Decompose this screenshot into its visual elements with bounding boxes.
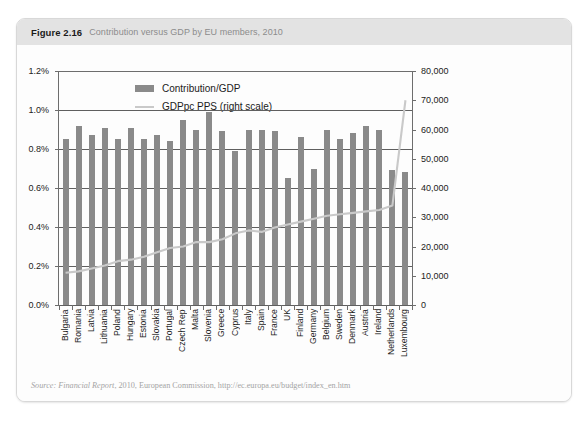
x-tick-label: France [269, 309, 279, 381]
y-tick-label-right: 10,000 [421, 271, 449, 281]
x-tick-label: Hungary [125, 309, 135, 381]
gdppc-polyline [66, 100, 406, 273]
x-tick-label: Czech Rep [177, 309, 187, 381]
x-tick-label: Germany [308, 309, 318, 381]
y-tick-right [412, 247, 416, 248]
x-tick-label: Slovenia [203, 309, 213, 381]
source-rest: , 2010, European Commission, http://ec.e… [114, 381, 350, 390]
y-tick-label-left: 0.6% [28, 183, 49, 193]
figure-source: Source: Financial Report, 2010, European… [31, 381, 350, 390]
y-tick-right [412, 276, 416, 277]
gdppc-line [59, 71, 412, 305]
x-tick-label: Ireland [373, 309, 383, 381]
x-tick-label: Cyprus [230, 309, 240, 381]
y-tick-label-right: 60,000 [421, 125, 449, 135]
x-tick-label: Luxembourg [399, 309, 409, 381]
plot-box [58, 71, 413, 306]
x-tick-label: Malta [190, 309, 200, 381]
y-tick-label-right: 40,000 [421, 183, 449, 193]
y-tick-label-right: 70,000 [421, 95, 449, 105]
x-tick-label: Spain [256, 309, 266, 381]
y-tick-right [412, 71, 416, 72]
y-tick-label-right: 0 [421, 300, 426, 310]
x-tick-label: Lithuania [99, 309, 109, 381]
y-tick-right [412, 217, 416, 218]
figure-number: Figure 2.16 [31, 27, 82, 38]
figure-title: Contribution versus GDP by EU members, 2… [89, 27, 283, 37]
figure-card: Figure 2.16 Contribution versus GDP by E… [16, 18, 572, 402]
x-tick-label: Bulgaria [60, 309, 70, 381]
y-tick-label-left: 0.2% [28, 261, 49, 271]
y-tick-left [55, 227, 59, 228]
figure-header: Figure 2.16 Contribution versus GDP by E… [17, 19, 571, 46]
x-tick-label: Finland [295, 309, 305, 381]
x-tick-label: Poland [112, 309, 122, 381]
x-tick-label: Sweden [334, 309, 344, 381]
x-tick-label: Portugal [164, 309, 174, 381]
chart-area: Contribution/GDP GDPpc PPS (right scale)… [17, 45, 571, 401]
y-tick-left [55, 266, 59, 267]
y-tick-label-left: 0.8% [28, 144, 49, 154]
x-tick-label: Belgium [321, 309, 331, 381]
y-tick-label-right: 20,000 [421, 242, 449, 252]
x-tick-label: Estonia [138, 309, 148, 381]
y-tick-right [412, 188, 416, 189]
y-axis-right: 010,00020,00030,00040,00050,00060,00070,… [415, 45, 485, 401]
y-tick-left [55, 149, 59, 150]
source-italic: Source: Financial Report [31, 381, 114, 390]
x-tick [412, 305, 413, 310]
y-tick-label-left: 0.0% [28, 300, 49, 310]
y-tick-label-left: 0.4% [28, 222, 49, 232]
x-tick-label: Austria [360, 309, 370, 381]
x-tick-label: Greece [216, 309, 226, 381]
y-tick-left [55, 110, 59, 111]
x-axis-labels: BulgariaRomaniaLatviaLithuaniaPolandHung… [58, 309, 411, 383]
y-tick-label-left: 1.2% [28, 66, 49, 76]
x-tick-label: UK [282, 309, 292, 381]
line-series [59, 71, 412, 305]
x-tick-label: Netherlands [386, 309, 396, 381]
y-tick-right [412, 159, 416, 160]
y-tick-label-right: 30,000 [421, 212, 449, 222]
x-tick-label: Denmark [347, 309, 357, 381]
x-tick-label: Slovakia [151, 309, 161, 381]
y-tick-label-left: 1.0% [28, 105, 49, 115]
x-tick-label: Italy [243, 309, 253, 381]
y-tick-left [55, 188, 59, 189]
x-tick-label: Romania [73, 309, 83, 381]
y-tick-label-right: 80,000 [421, 66, 449, 76]
y-tick-left [55, 71, 59, 72]
x-tick-label: Latvia [86, 309, 96, 381]
y-axis-left: 0.0%0.2%0.4%0.6%0.8%1.0%1.2% [17, 45, 55, 401]
y-tick-right [412, 100, 416, 101]
y-tick-label-right: 50,000 [421, 154, 449, 164]
y-tick-right [412, 130, 416, 131]
